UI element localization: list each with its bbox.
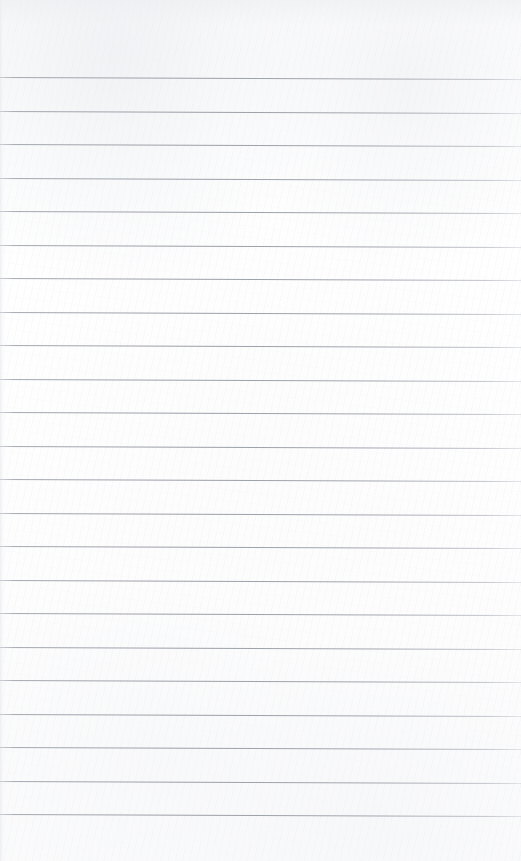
rule-line xyxy=(0,211,521,214)
rule-line xyxy=(0,580,521,583)
rule-line xyxy=(0,345,521,348)
writing-lines-layer xyxy=(0,0,521,861)
rule-line xyxy=(0,647,521,650)
notebook-page xyxy=(0,0,521,861)
paper-background xyxy=(0,0,521,861)
rule-line xyxy=(0,479,521,482)
scan-edge-left xyxy=(0,0,5,861)
rule-line xyxy=(0,814,521,817)
rule-line xyxy=(0,312,521,315)
rule-line xyxy=(0,111,521,114)
ruled-lines-layer xyxy=(0,0,521,861)
scan-edge-top xyxy=(0,0,521,26)
rule-line xyxy=(0,278,521,281)
rule-line xyxy=(0,546,521,549)
paper-grain-texture xyxy=(0,0,521,861)
rule-line xyxy=(0,245,521,248)
rule-line xyxy=(0,513,521,516)
rule-line xyxy=(0,144,521,147)
rule-line xyxy=(0,747,521,750)
rule-line xyxy=(0,680,521,683)
rule-line xyxy=(0,781,521,784)
rule-line xyxy=(0,613,521,616)
rule-line xyxy=(0,77,521,80)
rule-line xyxy=(0,178,521,181)
rule-line xyxy=(0,714,521,717)
rule-line xyxy=(0,379,521,382)
rule-line xyxy=(0,446,521,449)
rule-line xyxy=(0,412,521,415)
